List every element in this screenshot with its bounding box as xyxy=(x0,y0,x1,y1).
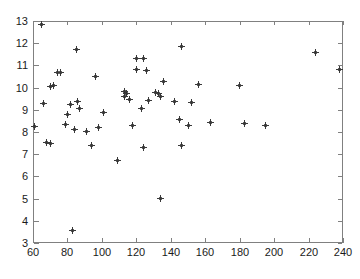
x-axis-tick xyxy=(171,238,172,243)
x-axis-tick-label: 240 xyxy=(323,246,360,259)
y-axis-tick-right xyxy=(338,243,342,244)
x-axis-tick xyxy=(67,238,68,243)
x-axis-tick-top xyxy=(171,21,172,25)
y-axis-tick-label: 11 xyxy=(6,58,28,72)
x-axis-tick xyxy=(274,238,275,243)
x-axis-tick xyxy=(205,238,206,243)
x-axis-tick-top xyxy=(274,21,275,25)
y-axis-tick xyxy=(34,65,39,66)
y-axis-tick-right xyxy=(338,110,342,111)
x-axis-tick xyxy=(136,238,137,243)
y-axis-tick-label: 7 xyxy=(6,147,28,161)
y-axis-tick-right xyxy=(338,132,342,133)
x-axis-tick-top xyxy=(67,21,68,25)
y-axis-tick-right xyxy=(338,221,342,222)
x-axis-tick-top xyxy=(136,21,137,25)
y-axis-tick xyxy=(34,221,39,222)
x-axis-tick-top xyxy=(240,21,241,25)
y-axis-tick-right xyxy=(338,176,342,177)
x-axis-tick-top xyxy=(343,21,344,25)
y-axis-tick-label: 9 xyxy=(6,103,28,117)
x-axis-tick-label: 160 xyxy=(185,246,225,259)
x-axis-tick-label: 80 xyxy=(47,246,87,259)
y-axis-tick-label: 13 xyxy=(6,14,28,28)
y-axis-tick xyxy=(34,243,39,244)
y-axis-tick-label: 12 xyxy=(6,36,28,50)
y-axis-tick xyxy=(34,43,39,44)
x-axis-tick-label: 120 xyxy=(116,246,156,259)
x-axis-tick-top xyxy=(309,21,310,25)
y-axis-tick-right xyxy=(338,154,342,155)
y-axis-tick-label: 10 xyxy=(6,81,28,95)
y-axis-tick-right xyxy=(338,43,342,44)
y-axis-tick-label: 8 xyxy=(6,125,28,139)
y-axis-tick xyxy=(34,199,39,200)
x-axis-tick xyxy=(102,238,103,243)
y-axis-tick xyxy=(34,88,39,89)
y-axis-tick-label: 3 xyxy=(6,236,28,250)
x-axis-tick xyxy=(240,238,241,243)
y-axis-tick xyxy=(34,21,39,22)
y-axis-tick-label: 5 xyxy=(6,192,28,206)
y-axis-tick xyxy=(34,110,39,111)
y-axis-tick xyxy=(34,132,39,133)
y-axis-tick-right xyxy=(338,88,342,89)
scatter-plot-figure: 6080100120140160180200220240345678910111… xyxy=(0,0,360,279)
x-axis-tick xyxy=(309,238,310,243)
plot-area xyxy=(33,21,343,243)
y-axis-tick-label: 4 xyxy=(6,214,28,228)
y-axis-tick-right xyxy=(338,199,342,200)
y-axis-tick-right xyxy=(338,65,342,66)
x-axis-tick-top xyxy=(102,21,103,25)
y-axis-tick xyxy=(34,176,39,177)
x-axis-tick-top xyxy=(205,21,206,25)
y-axis-tick xyxy=(34,154,39,155)
y-axis-tick-right xyxy=(338,21,342,22)
x-axis-tick xyxy=(343,238,344,243)
x-axis-tick-label: 200 xyxy=(254,246,294,259)
y-axis-tick-label: 6 xyxy=(6,169,28,183)
